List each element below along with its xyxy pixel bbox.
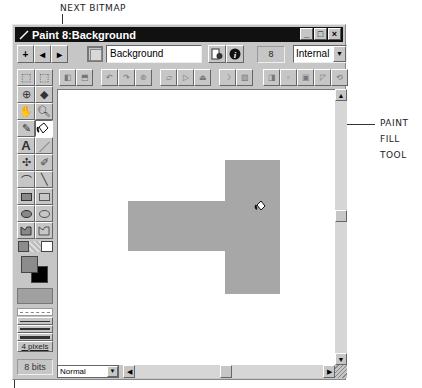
- cast-member-script-button[interactable]: [208, 45, 226, 63]
- invert-icon[interactable]: ◨: [263, 69, 280, 86]
- pencil-icon[interactable]: ／: [35, 137, 53, 154]
- cast-member-name-field[interactable]: Background: [106, 45, 202, 63]
- rectangle-icon[interactable]: [35, 188, 53, 205]
- pattern-chip[interactable]: [17, 288, 53, 304]
- registration-point-icon[interactable]: ⊕: [17, 86, 35, 103]
- callout-word-fill: FILL: [380, 131, 408, 147]
- rotate-right-icon[interactable]: ↷: [118, 69, 135, 86]
- text-tool-icon[interactable]: A: [17, 137, 35, 154]
- paint-bucket-icon[interactable]: [35, 120, 53, 137]
- skew-icon[interactable]: ▱: [160, 69, 177, 86]
- air-brush-icon[interactable]: ✣: [17, 154, 35, 171]
- info-icon: i: [229, 48, 241, 60]
- new-cast-member-button[interactable]: +: [17, 45, 34, 63]
- cast-library-select[interactable]: Internal ▼: [293, 45, 347, 63]
- ellipse-icon[interactable]: [35, 205, 53, 222]
- magnifier-icon[interactable]: 🔍︎: [35, 103, 53, 120]
- ink-select[interactable]: Normal ▼: [57, 365, 119, 378]
- window-title: Paint 8:Background: [32, 29, 136, 41]
- callout-word-tool: TOOL: [380, 147, 408, 163]
- cast-toolbar: + ◂ ▸ Background i 8 Internal ▼: [17, 45, 341, 67]
- line-width-2[interactable]: [17, 325, 53, 333]
- gradient-color-chip-end[interactable]: [41, 241, 53, 252]
- line-width-1[interactable]: [17, 317, 53, 325]
- darken-icon[interactable]: ▣: [297, 69, 314, 86]
- polygon-glyph: [38, 226, 50, 236]
- hand-icon[interactable]: ✋: [17, 103, 35, 120]
- marquee-icon[interactable]: ⬚: [35, 69, 53, 86]
- effects-toolbar: ◧ ⬒ ↶ ↷ ⊛ ▱ ▷ ⏏ ☽ ▨ ◨ ▫ ▣ ◸ ⟲: [57, 69, 341, 89]
- lighten-icon[interactable]: ▫: [280, 69, 297, 86]
- filled-polygon-glyph: [20, 226, 32, 236]
- lasso-icon[interactable]: ⬚: [17, 69, 35, 86]
- ink-value: Normal: [60, 367, 86, 376]
- paint-window: Paint 8:Background _ □ × + ◂ ▸ Backgroun…: [12, 24, 346, 380]
- cast-member-drag-icon[interactable]: [87, 46, 103, 62]
- resize-grip[interactable]: [335, 365, 347, 378]
- maximize-button[interactable]: □: [314, 28, 327, 40]
- line-width-other[interactable]: 4 pixels: [17, 341, 53, 352]
- close-button[interactable]: ×: [328, 28, 341, 40]
- horizontal-scrollbar[interactable]: ◀ ▶: [123, 365, 335, 378]
- gradient-destination-chip[interactable]: [29, 241, 41, 252]
- flip-vertical-icon[interactable]: ⬒: [76, 69, 93, 86]
- cast-member-info-button[interactable]: i: [226, 45, 244, 63]
- flip-horizontal-icon[interactable]: ◧: [59, 69, 76, 86]
- perspective-icon[interactable]: ⏏: [194, 69, 211, 86]
- eyedropper-icon[interactable]: ✎: [17, 120, 35, 137]
- eraser-icon[interactable]: ◆: [35, 86, 53, 103]
- shape-vertical-bar: [225, 160, 280, 294]
- line-width-3[interactable]: [17, 333, 53, 341]
- callout-word-paint: PAINT: [380, 115, 408, 131]
- smooth-icon[interactable]: ☽: [219, 69, 236, 86]
- foreground-color-chip[interactable]: [21, 256, 38, 273]
- horizontal-scroll-thumb[interactable]: [220, 365, 232, 378]
- scroll-left-icon[interactable]: ◀: [123, 365, 135, 378]
- paint-pen-icon: [19, 30, 29, 40]
- paint-bucket-cursor-icon: [253, 199, 267, 213]
- shape-horizontal-bar: [128, 201, 228, 251]
- scroll-right-icon[interactable]: ▶: [323, 365, 335, 378]
- chevron-down-icon[interactable]: ▼: [333, 46, 346, 62]
- vertical-scrollbar[interactable]: ▲ ▼: [335, 89, 347, 365]
- chevron-down-icon[interactable]: ▼: [107, 366, 118, 377]
- status-bar: Normal ▼ ◀ ▶: [57, 365, 345, 379]
- free-rotate-icon[interactable]: ⊛: [135, 69, 152, 86]
- paint-canvas[interactable]: [57, 89, 335, 365]
- paint-bucket-glyph: [36, 121, 50, 135]
- brush-icon[interactable]: ✐: [35, 154, 53, 171]
- vertical-scroll-thumb[interactable]: [335, 210, 347, 222]
- callout-next-bitmap: NEXT BITMAP: [60, 0, 126, 16]
- color-depth-indicator: 8 bits: [17, 359, 53, 375]
- gradient-color-chip-start[interactable]: [18, 241, 29, 252]
- rotate-left-icon[interactable]: ↶: [101, 69, 118, 86]
- title-bar[interactable]: Paint 8:Background _ □ ×: [15, 27, 343, 42]
- cast-library-value: Internal: [296, 48, 329, 59]
- polygon-icon[interactable]: [35, 222, 53, 239]
- callout-paint-fill-tool: PAINT FILL TOOL: [380, 115, 408, 163]
- trace-edges-icon[interactable]: ▨: [236, 69, 253, 86]
- cast-member-number: 8: [257, 46, 285, 63]
- previous-bitmap-button[interactable]: ◂: [34, 45, 51, 63]
- warp-icon[interactable]: ▷: [177, 69, 194, 86]
- minimize-button[interactable]: _: [300, 28, 313, 40]
- line-width-none[interactable]: [17, 308, 53, 316]
- switch-colors-icon[interactable]: ⟲: [331, 69, 348, 86]
- filled-ellipse-icon[interactable]: [17, 205, 35, 222]
- next-bitmap-button[interactable]: ▸: [51, 45, 68, 63]
- line-icon[interactable]: ╲: [35, 171, 53, 188]
- fill-icon[interactable]: ◸: [314, 69, 331, 86]
- script-icon: [211, 48, 223, 60]
- filled-polygon-icon[interactable]: [17, 222, 35, 239]
- filled-rectangle-icon[interactable]: [17, 188, 35, 205]
- arc-icon[interactable]: ⌒: [17, 171, 35, 188]
- scroll-down-icon[interactable]: ▼: [335, 353, 347, 365]
- scroll-up-icon[interactable]: ▲: [335, 89, 347, 101]
